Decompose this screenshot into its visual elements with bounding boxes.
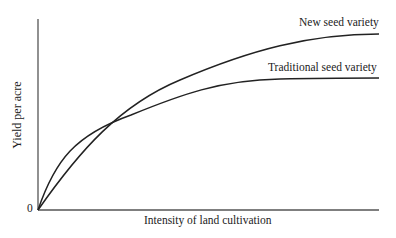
chart-canvas: [0, 0, 396, 238]
traditional-seed-curve: [38, 78, 379, 210]
new-seed-label: New seed variety: [299, 16, 379, 28]
y-axis-label: Yield per acre: [10, 81, 25, 148]
origin-label: 0: [27, 202, 33, 214]
traditional-seed-label: Traditional seed variety: [268, 61, 377, 73]
x-axis-label: Intensity of land cultivation: [144, 214, 271, 226]
